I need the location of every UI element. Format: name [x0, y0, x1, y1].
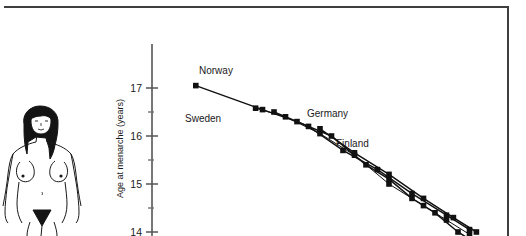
- data-point-marker: [386, 181, 392, 187]
- menarche-age-line-chart: 17161514 Age at menarche (years) NorwayS…: [112, 16, 508, 236]
- series-norway: [193, 83, 484, 236]
- data-point-marker: [317, 126, 323, 132]
- y-tick-label: 16: [130, 130, 142, 142]
- data-point-marker: [352, 150, 358, 156]
- series-annotation-label: Germany: [307, 108, 348, 119]
- y-tick-label: 15: [130, 178, 142, 190]
- data-point-marker: [193, 83, 199, 89]
- data-point-marker: [451, 215, 457, 221]
- y-axis-title: Age at menarche (years): [115, 99, 125, 198]
- data-point-marker: [444, 217, 450, 223]
- adult-female-anatomy-illustration: [0, 104, 104, 236]
- series-line: [274, 112, 470, 230]
- data-point-marker: [306, 124, 312, 130]
- data-point-marker: [421, 196, 427, 202]
- series-annotation-label: Finland: [336, 138, 369, 149]
- data-point-marker: [421, 203, 427, 209]
- series-annotation-label: Sweden: [185, 113, 221, 124]
- data-point-marker: [386, 172, 392, 178]
- figure-frame: 17161514 Age at menarche (years) NorwayS…: [0, 0, 526, 236]
- y-tick-label: 17: [130, 82, 142, 94]
- pubic-region: [33, 210, 51, 226]
- series-layer: [193, 83, 484, 236]
- y-axis-tick-labels: 17161514: [130, 82, 142, 236]
- data-point-marker: [455, 229, 461, 235]
- series-annotations: NorwaySwedenGermanyFinland: [185, 65, 369, 149]
- data-point-marker: [271, 109, 277, 115]
- data-point-marker: [474, 229, 480, 235]
- series-annotation-label: Norway: [199, 65, 233, 76]
- y-tick-label: 14: [130, 226, 142, 236]
- data-point-marker: [253, 105, 259, 111]
- frame-top-border: [4, 6, 509, 8]
- series-germany: [271, 109, 472, 232]
